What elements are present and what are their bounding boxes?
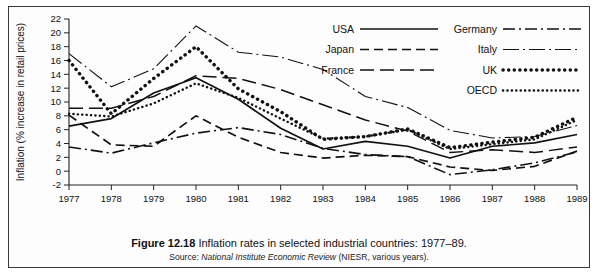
inflation-line-chart: -20246810121416182022 197719781979198019… — [9, 7, 591, 215]
y-tick-label: 22 — [50, 13, 61, 24]
legend-label-france: France — [321, 64, 354, 76]
y-tick-label: 0 — [56, 166, 61, 177]
series-line-italy — [69, 26, 577, 138]
figure-frame: -20246810121416182022 197719781979198019… — [8, 6, 590, 268]
caption-figure-number: Figure 12.18 — [131, 237, 195, 249]
caption-title: Inflation rates in selected industrial c… — [198, 237, 466, 249]
source-suffix: (NIESR, various years). — [338, 252, 428, 262]
y-tick-label: -2 — [53, 179, 61, 190]
legend-label-japan: Japan — [325, 43, 354, 55]
x-tick-label: 1984 — [355, 193, 376, 204]
series-line-japan — [69, 115, 577, 170]
y-tick-label: 8 — [56, 110, 61, 121]
series-line-germany — [69, 128, 577, 175]
figure-caption: Figure 12.18 Inflation rates in selected… — [9, 237, 589, 262]
x-axis: 1977197819791980198119821983198419851986… — [58, 185, 587, 204]
x-tick-label: 1979 — [143, 193, 164, 204]
y-tick-label: 6 — [56, 124, 61, 135]
x-tick-label: 1982 — [270, 193, 291, 204]
y-axis-label-text: Inflation (% increase in retail prices) — [15, 23, 26, 181]
y-tick-label: 4 — [56, 138, 61, 149]
y-tick-label: 18 — [50, 41, 61, 52]
x-tick-label: 1987 — [482, 193, 503, 204]
y-tick-label: 12 — [50, 83, 61, 94]
x-tick-label: 1986 — [439, 193, 460, 204]
x-tick-label: 1980 — [185, 193, 206, 204]
y-tick-label: 20 — [50, 27, 61, 38]
x-tick-label: 1985 — [397, 193, 418, 204]
source-publication: National Institute Economic Review — [201, 252, 336, 262]
x-tick-label: 1977 — [58, 193, 79, 204]
chart-plot-area: -20246810121416182022 197719781979198019… — [9, 7, 591, 215]
source-prefix: Source: — [169, 252, 199, 262]
y-tick-label: 16 — [50, 55, 61, 66]
caption-source: Source: National Institute Economic Revi… — [9, 252, 589, 262]
y-tick-label: 2 — [56, 152, 61, 163]
legend-label-germany: Germany — [454, 23, 498, 35]
series-line-oecd — [69, 83, 577, 149]
x-tick-label: 1989 — [566, 193, 587, 204]
y-tick-label: 14 — [50, 69, 61, 80]
figure-container: -20246810121416182022 197719781979198019… — [0, 0, 598, 277]
x-tick-label: 1981 — [228, 193, 249, 204]
y-axis: -20246810121416182022 — [50, 13, 69, 190]
chart-legend[interactable]: USAJapanFranceGermanyItalyUKOECD — [321, 23, 581, 97]
x-tick-label: 1983 — [312, 193, 333, 204]
legend-label-usa: USA — [332, 23, 354, 35]
x-tick-label: 1988 — [524, 193, 545, 204]
caption-line: Figure 12.18 Inflation rates in selected… — [9, 237, 589, 250]
legend-label-italy: Italy — [478, 43, 498, 55]
y-tick-label: 10 — [50, 96, 61, 107]
legend-label-oecd: OECD — [467, 84, 498, 96]
y-axis-title: Inflation (% increase in retail prices) — [15, 23, 26, 181]
x-tick-label: 1978 — [101, 193, 122, 204]
series-lines — [69, 26, 577, 175]
legend-label-uk: UK — [482, 64, 497, 76]
